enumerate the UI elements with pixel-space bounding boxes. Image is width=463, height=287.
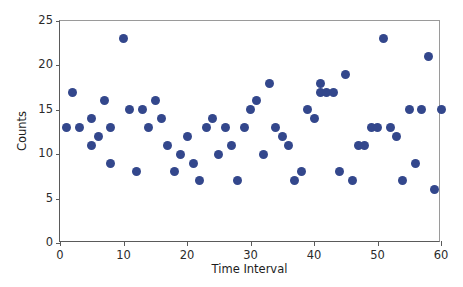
data-point — [106, 159, 115, 168]
data-point — [195, 176, 204, 185]
data-point — [284, 141, 293, 150]
data-point — [398, 176, 407, 185]
data-point — [208, 114, 217, 123]
y-tick-mark — [56, 199, 61, 200]
plot-area: 0510152025 0102030405060 — [59, 20, 440, 242]
data-point — [176, 150, 185, 159]
data-point — [335, 167, 344, 176]
y-tick-label: 0 — [46, 237, 53, 249]
data-point — [68, 88, 77, 97]
data-point — [125, 105, 134, 114]
x-tick-mark — [60, 241, 61, 246]
data-point — [183, 132, 192, 141]
x-tick-mark — [124, 241, 125, 246]
x-tick-label: 20 — [180, 250, 195, 262]
data-point — [310, 114, 319, 123]
data-point — [233, 176, 242, 185]
data-point — [271, 123, 280, 132]
data-point — [373, 123, 382, 132]
data-point — [290, 176, 299, 185]
data-point — [392, 132, 401, 141]
data-point — [341, 70, 350, 79]
data-point — [87, 141, 96, 150]
data-point — [265, 79, 274, 88]
data-point — [379, 34, 388, 43]
x-axis-label: Time Interval — [59, 262, 440, 276]
data-point — [132, 167, 141, 176]
data-point — [151, 96, 160, 105]
x-tick-label: 50 — [370, 250, 385, 262]
y-tick-label: 15 — [38, 104, 53, 116]
data-point — [62, 123, 71, 132]
data-point — [100, 96, 109, 105]
data-point — [202, 123, 211, 132]
data-point — [386, 123, 395, 132]
data-point — [214, 150, 223, 159]
data-point — [252, 96, 261, 105]
data-point — [221, 123, 230, 132]
y-tick-label: 10 — [38, 148, 53, 160]
data-point — [94, 132, 103, 141]
data-point — [119, 34, 128, 43]
data-point — [170, 167, 179, 176]
data-point — [437, 105, 446, 114]
data-point — [259, 150, 268, 159]
data-point — [163, 141, 172, 150]
data-point — [303, 105, 312, 114]
data-point — [348, 176, 357, 185]
x-tick-mark — [187, 241, 188, 246]
data-point — [157, 114, 166, 123]
y-tick-mark — [56, 154, 61, 155]
data-point — [240, 123, 249, 132]
y-tick-label: 5 — [46, 193, 53, 205]
data-point — [329, 88, 338, 97]
y-axis-label: Counts — [15, 111, 29, 151]
data-point — [297, 167, 306, 176]
data-point — [75, 123, 84, 132]
x-tick-label: 30 — [243, 250, 258, 262]
y-tick-mark — [56, 110, 61, 111]
x-tick-mark — [378, 241, 379, 246]
data-point — [405, 105, 414, 114]
data-point — [424, 52, 433, 61]
data-point — [87, 114, 96, 123]
data-point — [360, 141, 369, 150]
data-point — [106, 123, 115, 132]
x-tick-mark — [251, 241, 252, 246]
y-tick-mark — [56, 21, 61, 22]
data-point — [138, 105, 147, 114]
data-point — [316, 79, 325, 88]
y-tick-label: 25 — [38, 15, 53, 27]
data-point — [144, 123, 153, 132]
data-point — [278, 132, 287, 141]
data-point — [417, 105, 426, 114]
scatter-plot-figure: Counts 0510152025 0102030405060 Time Int… — [0, 0, 463, 287]
x-tick-label: 60 — [434, 250, 449, 262]
x-tick-label: 0 — [56, 250, 63, 262]
data-point — [227, 141, 236, 150]
data-point — [246, 105, 255, 114]
y-tick-mark — [56, 65, 61, 66]
data-point — [411, 159, 420, 168]
x-tick-label: 10 — [116, 250, 131, 262]
y-tick-label: 20 — [38, 60, 53, 72]
x-tick-mark — [441, 241, 442, 246]
x-tick-label: 40 — [307, 250, 322, 262]
x-tick-mark — [314, 241, 315, 246]
data-point — [189, 159, 198, 168]
data-point — [430, 185, 439, 194]
